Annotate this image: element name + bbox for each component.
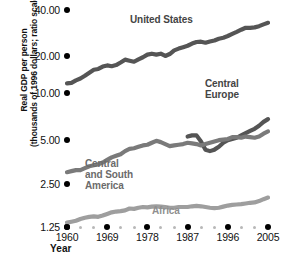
x-tick-dot-minor (119, 226, 122, 229)
x-tick-label-1996: 1996 (208, 231, 248, 243)
x-tick-label-1960: 1960 (47, 231, 87, 243)
x-tick-dot-minor (173, 226, 176, 229)
x-tick-dot-minor (133, 226, 136, 229)
series-label-africa: Africa (152, 205, 180, 216)
x-tick-dot-minor (79, 226, 82, 229)
series-label-central-europe-line1: Central (205, 78, 239, 89)
series-label-central-south-america: Central and South America (85, 158, 133, 191)
x-tick-label-2005: 2005 (248, 231, 281, 243)
series-label-central-europe: Central Europe (205, 78, 239, 100)
x-tick-dot-minor (200, 226, 203, 229)
x-tick-label-1987: 1987 (168, 231, 208, 243)
x-tick-dot-minor (159, 226, 162, 229)
x-tick-label-1978: 1978 (127, 231, 167, 243)
gdp-per-person-chart: Real GDP per person (thousands of 1996 d… (0, 0, 281, 259)
x-tick-dot-1996 (225, 224, 231, 230)
x-tick-dot-minor (213, 226, 216, 229)
series-label-central-south-line3: America (85, 180, 133, 191)
x-axis-title: Year (50, 243, 72, 254)
x-tick-label-1969: 1969 (87, 231, 127, 243)
series-label-central-europe-line2: Europe (205, 89, 239, 100)
series-label-central-south-line2: and South (85, 169, 133, 180)
x-tick-dot-1987 (185, 224, 191, 230)
x-tick-dot-2005 (265, 224, 271, 230)
series-label-central-south-line1: Central (85, 158, 133, 169)
series-line-united-states (67, 23, 268, 84)
x-tick-dot-minor (253, 226, 256, 229)
x-tick-dot-1960 (64, 224, 70, 230)
series-label-united-states: United States (130, 14, 193, 25)
plot-area (0, 0, 281, 259)
x-tick-dot-minor (92, 226, 95, 229)
x-tick-dot-minor (240, 226, 243, 229)
